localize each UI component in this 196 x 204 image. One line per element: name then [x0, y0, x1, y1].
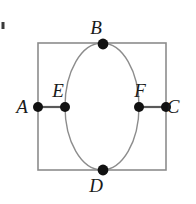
- point-d: [98, 165, 109, 176]
- point-e: [60, 102, 70, 112]
- geometry-figure: A B C D E F: [0, 0, 196, 204]
- point-f: [134, 102, 144, 112]
- point-label-d: D: [88, 175, 103, 196]
- stray-speck: [2, 22, 5, 29]
- point-b: [98, 39, 109, 50]
- point-label-e: E: [51, 80, 64, 101]
- point-a: [33, 102, 43, 112]
- point-label-b: B: [90, 17, 102, 38]
- point-label-f: F: [133, 80, 146, 101]
- point-label-a: A: [14, 96, 28, 117]
- point-label-c: C: [167, 96, 180, 117]
- figure-canvas: A B C D E F: [0, 0, 196, 204]
